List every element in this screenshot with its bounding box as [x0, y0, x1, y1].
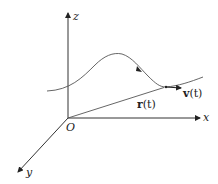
x-axis-label: x: [203, 111, 210, 124]
origin-label: O: [66, 121, 75, 134]
velocity-vector: [166, 87, 181, 88]
velocity-vector-label: v(t): [182, 87, 202, 100]
y-axis: [18, 118, 68, 172]
z-axis-label: z: [72, 10, 79, 23]
space-curve: [47, 53, 203, 91]
y-axis-label: y: [25, 166, 33, 179]
position-vector-label: r(t): [137, 98, 156, 111]
curve-diagram: z x y O r(t) v(t): [0, 0, 218, 184]
